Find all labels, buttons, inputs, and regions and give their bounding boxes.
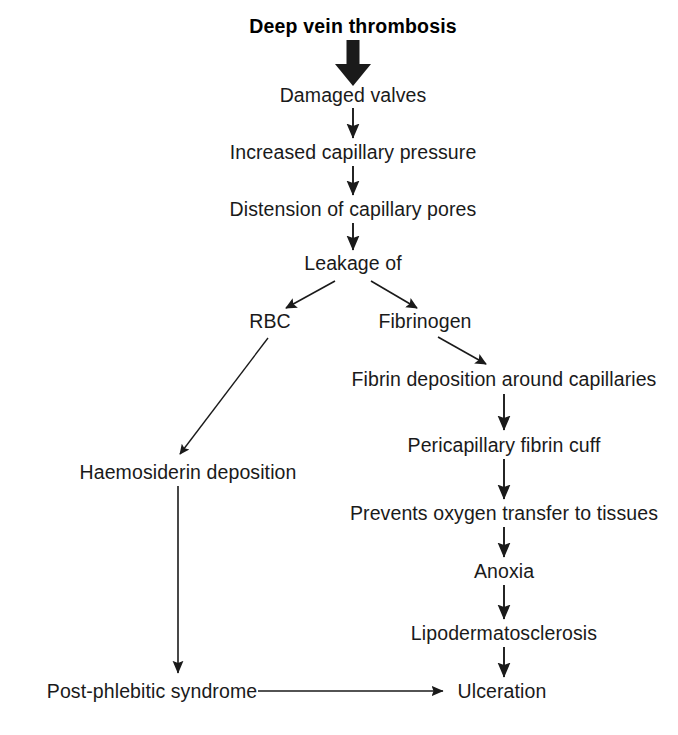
node-fibrinogen: Fibrinogen	[378, 311, 471, 332]
flowchart-canvas: Deep vein thrombosis Damaged valves Incr…	[0, 0, 678, 735]
node-damaged-valves: Damaged valves	[280, 85, 427, 106]
node-fibrin-deposition-around-capillaries: Fibrin deposition around capillaries	[352, 369, 657, 390]
node-ulceration: Ulceration	[458, 681, 547, 702]
node-pericapillary-fibrin-cuff: Pericapillary fibrin cuff	[408, 435, 601, 456]
node-leakage-of: Leakage of	[304, 253, 402, 274]
edge-dvt-to-damaged-valves	[335, 40, 371, 86]
node-increased-capillary-pressure: Increased capillary pressure	[230, 142, 477, 163]
edge-leakage-to-fibrinogen	[371, 281, 417, 308]
node-rbc: RBC	[249, 311, 290, 332]
node-prevents-oxygen-transfer-to-tissues: Prevents oxygen transfer to tissues	[350, 503, 658, 524]
node-distension-of-capillary-pores: Distension of capillary pores	[230, 199, 477, 220]
node-haemosiderin-deposition: Haemosiderin deposition	[80, 462, 297, 483]
edge-leakage-to-rbc	[286, 281, 335, 308]
node-deep-vein-thrombosis: Deep vein thrombosis	[249, 16, 457, 37]
node-lipodermatosclerosis: Lipodermatosclerosis	[411, 623, 597, 644]
edge-rbc-to-haemosiderin-deposition	[180, 338, 268, 454]
node-post-phlebitic-syndrome: Post-phlebitic syndrome	[47, 681, 257, 702]
node-anoxia: Anoxia	[474, 561, 534, 582]
edge-fibrinogen-to-fibrin-deposition	[438, 337, 486, 364]
